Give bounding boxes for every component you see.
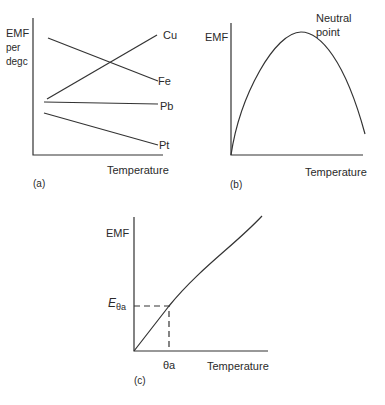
panel-c-xlabel: Temperature — [207, 360, 269, 372]
label-pt: Pt — [159, 139, 169, 151]
label-cu: Cu — [163, 29, 177, 41]
panel-a-ylabel-2: per — [6, 42, 20, 54]
e-theta-a-label: Eθa — [108, 297, 126, 313]
panel-c-caption: (c) — [134, 375, 146, 387]
panel-b-caption: (b) — [230, 179, 242, 191]
emf-curve-c — [134, 216, 262, 351]
panel-a-ylabel-1: EMF — [6, 27, 29, 39]
panel-b-xlabel: Temperature — [305, 166, 367, 178]
line-pt — [44, 113, 158, 145]
panel-a-caption: (a) — [33, 178, 45, 190]
panel-b-ylabel: EMF — [205, 31, 228, 43]
panel-c-ylabel: EMF — [106, 227, 129, 239]
e-theta-a-main: E — [108, 296, 116, 310]
emf-curve-b — [231, 32, 365, 155]
panel-a-axes — [33, 18, 163, 155]
e-theta-a-sub: θa — [116, 302, 126, 312]
theta-a-label: θa — [163, 359, 175, 371]
label-fe: Fe — [158, 75, 171, 87]
panel-a-xlabel: Temperature — [107, 164, 169, 176]
figure-canvas — [0, 0, 385, 405]
panel-c-axes — [134, 217, 268, 351]
line-pb — [44, 102, 158, 104]
neutral-point-label-2: point — [316, 26, 340, 38]
panel-a-ylabel-3: degc — [6, 56, 28, 68]
neutral-point-label-1: Neutral — [316, 12, 351, 24]
label-pb: Pb — [160, 100, 173, 112]
